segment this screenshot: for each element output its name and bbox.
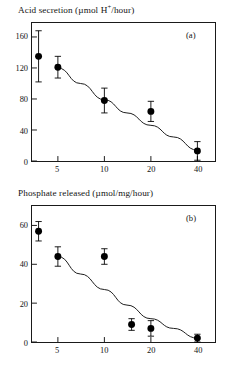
data-marker — [54, 64, 61, 71]
data-marker — [194, 147, 201, 154]
panel-b-plot-svg — [32, 206, 215, 342]
data-marker — [54, 253, 61, 260]
x-tick-label: 20 — [147, 165, 155, 174]
x-tick-label: 40 — [194, 346, 202, 355]
y-tick-label: 60 — [20, 220, 28, 229]
panel-a-title-suffix: /hour) — [111, 5, 134, 15]
panel-a-plot-svg — [32, 23, 215, 161]
data-point — [147, 321, 154, 337]
figure-container: Acid secretion (µmol H+/hour) 0408012016… — [0, 0, 229, 366]
data-marker — [101, 253, 108, 260]
x-tick-label: 10 — [100, 346, 108, 355]
fit-curve — [58, 257, 198, 339]
chart-panel-b: Phosphate released (µmol/mg/hour) 020406… — [0, 183, 229, 366]
data-point — [194, 334, 201, 342]
panel-b-title: Phosphate released (µmol/mg/hour) — [18, 188, 153, 198]
data-point — [101, 88, 108, 113]
panel-b-tag: (b) — [186, 213, 196, 223]
panel-b-ytick-labels: 0204060 — [0, 205, 28, 343]
data-point — [101, 249, 108, 265]
data-marker — [194, 335, 201, 342]
data-point — [35, 222, 42, 241]
data-point — [147, 101, 154, 121]
data-point — [194, 142, 201, 161]
panel-b-plot-area — [31, 205, 216, 343]
y-tick-label: 40 — [20, 126, 28, 135]
y-tick-label: 120 — [15, 63, 28, 72]
data-marker — [101, 97, 108, 104]
y-tick-label: 0 — [24, 158, 28, 167]
panel-a-title: Acid secretion (µmol H+/hour) — [18, 5, 134, 15]
y-tick-label: 40 — [20, 260, 28, 269]
panel-a-plot-area — [31, 22, 216, 162]
data-marker — [128, 321, 135, 328]
data-marker — [147, 108, 154, 115]
panel-a-title-prefix: Acid secretion (µmol H — [18, 5, 107, 15]
fit-curve — [58, 68, 198, 150]
x-tick-label: 20 — [147, 346, 155, 355]
y-tick-label: 160 — [15, 32, 28, 41]
x-tick-label: 5 — [55, 346, 59, 355]
panel-b-title-prefix: Phosphate released (µmol/mg/hour) — [18, 188, 153, 198]
y-tick-label: 80 — [20, 95, 28, 104]
data-marker — [35, 228, 42, 235]
chart-panel-a: Acid secretion (µmol H+/hour) 0408012016… — [0, 0, 229, 183]
data-marker — [147, 325, 154, 332]
data-point — [128, 319, 135, 331]
data-point — [54, 56, 61, 78]
x-tick-label: 40 — [194, 165, 202, 174]
y-tick-label: 0 — [24, 339, 28, 348]
data-point — [35, 31, 42, 82]
x-tick-label: 5 — [55, 165, 59, 174]
data-point — [54, 247, 61, 266]
x-tick-label: 10 — [100, 165, 108, 174]
panel-a-ytick-labels: 04080120160 — [0, 22, 28, 162]
data-marker — [35, 53, 42, 60]
y-tick-label: 20 — [20, 299, 28, 308]
panel-a-tag: (a) — [186, 30, 196, 40]
